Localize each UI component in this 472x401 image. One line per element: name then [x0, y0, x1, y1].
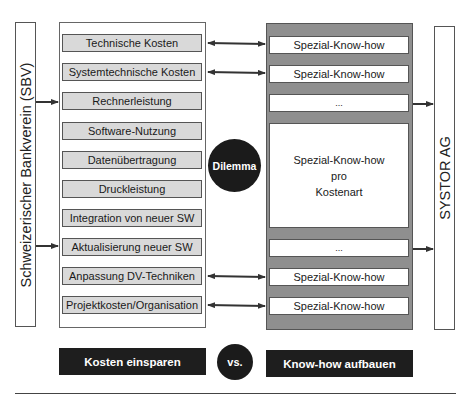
double-arrow-3: [208, 276, 265, 277]
double-arrow-1: [208, 43, 265, 44]
vs-label: vs.: [227, 356, 242, 368]
kosten-einsparen-bar: Kosten einsparen: [59, 348, 206, 375]
double-arrow-2: [208, 72, 265, 73]
know-how-aufbauen-label: Know-how aufbauen: [283, 358, 395, 370]
double-arrow-4: [208, 305, 265, 306]
bottom-divider: [15, 393, 456, 394]
connector-arrows: [0, 0, 472, 401]
vs-circle: vs.: [217, 344, 253, 380]
know-how-aufbauen-bar: Know-how aufbauen: [266, 350, 413, 377]
kosten-einsparen-label: Kosten einsparen: [84, 356, 181, 368]
